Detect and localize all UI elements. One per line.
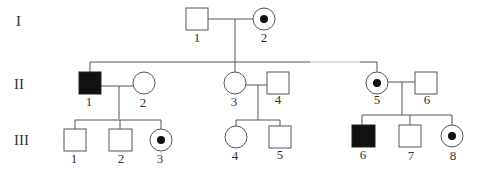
individual-III-3[interactable]: 3 bbox=[150, 129, 172, 166]
male-symbol bbox=[109, 129, 132, 151]
female-symbol bbox=[224, 72, 246, 94]
male-symbol bbox=[399, 125, 421, 147]
individual-label: 5 bbox=[277, 147, 284, 162]
individual-label: 5 bbox=[374, 92, 381, 107]
male-symbol bbox=[267, 72, 289, 94]
individual-III-7[interactable]: 7 bbox=[399, 125, 421, 163]
individual-label: 1 bbox=[86, 94, 93, 109]
generation-label-II: II bbox=[14, 76, 24, 92]
affected-male-symbol bbox=[79, 72, 101, 94]
female-symbol bbox=[133, 72, 155, 94]
individual-label: 1 bbox=[71, 151, 78, 166]
individual-I-2[interactable]: 2 bbox=[253, 8, 275, 45]
individual-label: 6 bbox=[424, 92, 431, 107]
individual-II-1[interactable]: 1 bbox=[79, 72, 101, 109]
individual-label: 3 bbox=[157, 151, 164, 166]
individual-label: 2 bbox=[261, 30, 268, 45]
carrier-dot-icon bbox=[448, 132, 456, 140]
individual-label: 3 bbox=[231, 94, 238, 109]
pedigree-chart: I II III 1 2 1 2 3 4 5 bbox=[0, 0, 482, 169]
individual-II-5[interactable]: 5 bbox=[366, 72, 388, 107]
individual-II-3[interactable]: 3 bbox=[224, 72, 246, 109]
individual-III-2[interactable]: 2 bbox=[109, 129, 132, 166]
individual-label: 1 bbox=[194, 30, 201, 45]
generation-label-I: I bbox=[16, 13, 21, 29]
individual-label: 2 bbox=[140, 95, 147, 110]
male-symbol bbox=[415, 72, 437, 94]
generation-label-III: III bbox=[14, 132, 29, 148]
individual-label: 8 bbox=[450, 148, 457, 163]
female-symbol bbox=[225, 126, 247, 148]
individual-II-4[interactable]: 4 bbox=[267, 72, 289, 107]
individual-III-6[interactable]: 6 bbox=[352, 125, 375, 162]
carrier-dot-icon bbox=[373, 79, 381, 87]
individual-II-2[interactable]: 2 bbox=[133, 72, 155, 110]
affected-male-symbol bbox=[352, 125, 375, 147]
carrier-dot-icon bbox=[157, 136, 165, 144]
individual-III-8[interactable]: 8 bbox=[441, 125, 463, 163]
individual-III-1[interactable]: 1 bbox=[64, 129, 86, 166]
carrier-dot-icon bbox=[260, 15, 268, 23]
individual-label: 4 bbox=[232, 148, 239, 163]
individual-label: 2 bbox=[118, 151, 125, 166]
individual-label: 4 bbox=[275, 92, 282, 107]
individual-III-4[interactable]: 4 bbox=[225, 126, 247, 163]
male-symbol bbox=[269, 126, 291, 148]
individual-II-6[interactable]: 6 bbox=[415, 72, 437, 107]
individual-I-1[interactable]: 1 bbox=[186, 8, 208, 45]
individual-label: 7 bbox=[408, 148, 415, 163]
male-symbol bbox=[186, 8, 208, 30]
individual-label: 6 bbox=[360, 147, 367, 162]
male-symbol bbox=[64, 129, 86, 151]
individual-III-5[interactable]: 5 bbox=[269, 126, 291, 162]
